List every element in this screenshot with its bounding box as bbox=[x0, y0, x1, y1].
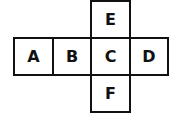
face-d: D bbox=[129, 37, 169, 76]
face-a-label: A bbox=[27, 47, 39, 66]
face-b-label: B bbox=[66, 47, 78, 66]
face-c: C bbox=[90, 37, 131, 76]
face-e-label: E bbox=[105, 10, 116, 29]
face-c-label: C bbox=[105, 47, 117, 66]
face-f: F bbox=[90, 74, 131, 113]
face-d-label: D bbox=[142, 47, 155, 66]
face-a: A bbox=[13, 37, 54, 76]
face-b: B bbox=[52, 37, 92, 76]
face-f-label: F bbox=[105, 84, 116, 103]
face-e: E bbox=[90, 0, 131, 39]
